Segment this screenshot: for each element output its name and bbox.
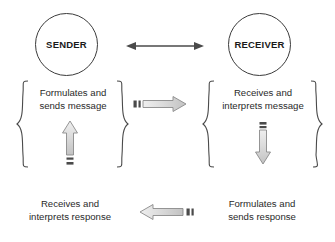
sender-response-line-2: sends response <box>210 211 314 224</box>
sender-node: SENDER <box>35 13 98 76</box>
receiver-response-line-2: interprets response <box>14 211 126 224</box>
receiver-node: RECEIVER <box>228 13 291 76</box>
sender-action-line-2: sends message <box>28 100 118 113</box>
sender-action-line-1: Formulates and <box>28 87 118 100</box>
receiver-action-text: Receives and interprets message <box>211 87 315 112</box>
sender-node-label: SENDER <box>46 39 87 50</box>
sender-action-text: Formulates and sends message <box>28 87 118 112</box>
block-arrow-right-icon <box>134 97 187 112</box>
receiver-node-label: RECEIVER <box>234 39 284 50</box>
double-headed-arrow-icon <box>126 42 204 50</box>
block-arrow-up-icon <box>63 121 78 165</box>
block-arrow-left-icon <box>140 205 194 220</box>
receiver-action-line-2: interprets message <box>211 100 315 113</box>
receiver-action-line-1: Receives and <box>211 87 315 100</box>
sender-response-line-1: Formulates and <box>210 198 314 211</box>
block-arrow-down-icon <box>256 122 271 164</box>
receiver-response-caption: Receives and interprets response <box>14 198 126 223</box>
communication-model-diagram: SENDER RECEIVER Formulates and sends mes… <box>0 0 335 242</box>
receiver-response-line-1: Receives and <box>14 198 126 211</box>
sender-response-caption: Formulates and sends response <box>210 198 314 223</box>
